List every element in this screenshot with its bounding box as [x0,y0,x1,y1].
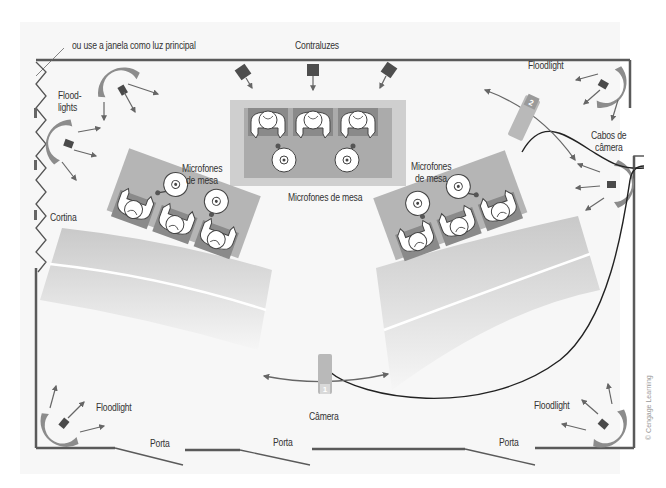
table-mics-left-label-2: de mesa [186,175,218,187]
floodlights-left-label-2: lights [58,102,77,114]
table-mics-center-label: Microfones de mesa [288,192,362,204]
door-3-label: Porta [499,437,519,449]
floodlights-left-label-1: Flood- [58,90,81,102]
camera-cables-label-1: Cabos de [591,130,626,142]
window-note-label: ou use a janela como luz principal [72,40,196,52]
studio-floor-plan: 2 1 ou use a janela como luz principal C… [0,0,666,488]
camera-label: Câmera [309,411,339,423]
door-2-label: Porta [273,437,293,449]
floodlight-bottom-right-label: Floodlight [534,400,570,412]
svg-text:1: 1 [323,385,328,394]
door-1-label: Porta [150,438,170,450]
table-mics-left-label-1: Microfones [182,163,222,175]
camera-cables-label-2: câmera [595,142,623,154]
backlights-label: Contraluzes [295,40,339,52]
floodlight-bottom-left-label: Floodlight [96,402,132,414]
table-mics-right-label-1: Microfones [411,161,451,173]
floodlight-top-right-label: Floodlight [528,60,564,72]
curtain-label: Cortina [50,212,77,224]
center-table [230,100,406,186]
credit-label: © Cengage Learning [645,375,652,440]
table-mics-right-label-2: de mesa [415,173,447,185]
